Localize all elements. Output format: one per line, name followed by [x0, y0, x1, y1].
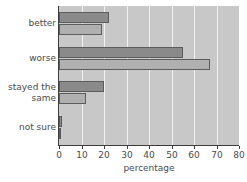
bar-group: [59, 116, 239, 139]
x-axis-tick-label: 80: [229, 150, 247, 161]
bar-chart: betterworsestayed thesamenot sure percen…: [0, 0, 247, 182]
y-axis-tick-label: better: [0, 18, 56, 29]
bar-group: [59, 81, 239, 104]
x-axis-tick: [82, 146, 83, 149]
plot-area: [59, 6, 239, 145]
x-axis-tick: [127, 146, 128, 149]
bar: [59, 93, 86, 104]
x-axis-tick: [239, 146, 240, 149]
bar: [59, 24, 102, 35]
y-axis-line: [58, 6, 59, 146]
x-axis-title: percentage: [59, 163, 239, 174]
x-axis-tick-label: 50: [162, 150, 182, 161]
y-axis-tick-labels: betterworsestayed thesamenot sure: [0, 0, 56, 182]
x-axis-tick: [172, 146, 173, 149]
x-axis-tick: [194, 146, 195, 149]
x-axis-tick: [59, 146, 60, 149]
x-axis-tick-label: 70: [207, 150, 227, 161]
x-axis-tick-label: 0: [49, 150, 69, 161]
bar-group: [59, 12, 239, 35]
bar: [59, 59, 210, 70]
y-axis-tick-label: worse: [0, 53, 56, 64]
x-axis-tick: [149, 146, 150, 149]
y-axis-tick-label: same: [0, 93, 56, 104]
y-axis-tick-label: stayed the: [0, 82, 56, 93]
x-axis-tick-label: 30: [117, 150, 137, 161]
bar: [59, 81, 104, 92]
bar: [59, 12, 109, 23]
x-axis-tick: [104, 146, 105, 149]
x-axis-tick-label: 60: [184, 150, 204, 161]
x-axis-tick: [217, 146, 218, 149]
bar: [59, 128, 61, 139]
bar: [59, 47, 183, 58]
bar-group: [59, 47, 239, 70]
y-axis-tick-label: not sure: [0, 122, 56, 133]
x-axis-tick-label: 20: [94, 150, 114, 161]
x-axis-tick-label: 10: [72, 150, 92, 161]
bar: [59, 116, 62, 127]
x-axis-tick-label: 40: [139, 150, 159, 161]
